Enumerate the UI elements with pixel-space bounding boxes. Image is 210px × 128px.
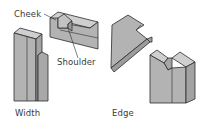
edge-upper-board (111, 15, 152, 72)
cheek-label: Cheek (14, 10, 41, 19)
joint-diagram: Cheek Shoulder Width Edge (0, 0, 210, 128)
edge-caption: Edge (112, 109, 134, 118)
width-upper-board (50, 12, 98, 58)
width-vertical-board (14, 28, 48, 101)
width-caption: Width (15, 109, 40, 118)
shoulder-label: Shoulder (57, 58, 96, 67)
edge-joint-group (111, 15, 195, 103)
edge-lower-board (150, 50, 195, 103)
